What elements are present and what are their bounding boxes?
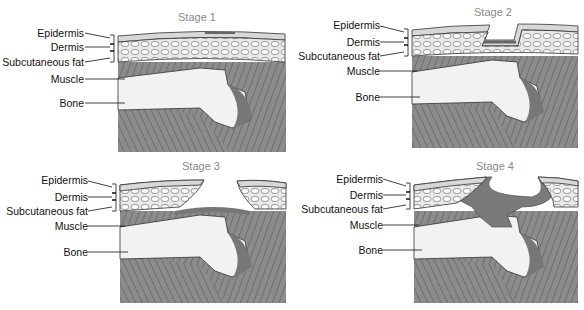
stage-3-panel: Stage 3 Epidermis Dermis Subcutaneous fa…	[0, 155, 292, 310]
label-muscle: Muscle	[51, 73, 84, 85]
label-epidermis: Epidermis	[333, 19, 380, 31]
label-dermis: Dermis	[347, 36, 380, 48]
label-bone: Bone	[63, 246, 88, 258]
label-bone: Bone	[358, 244, 383, 256]
label-subcutaneous-fat: Subcutaneous fat	[6, 205, 88, 217]
label-subcutaneous-fat: Subcutaneous fat	[298, 50, 380, 62]
label-dermis: Dermis	[350, 189, 383, 201]
stage-1-illustration	[0, 0, 292, 155]
label-epidermis: Epidermis	[41, 174, 88, 186]
label-subcutaneous-fat: Subcutaneous fat	[2, 56, 84, 68]
stage-4-panel: Stage 4 Epidermis Dermis Subcutaneous fa…	[292, 155, 584, 310]
label-dermis: Dermis	[55, 191, 88, 203]
label-epidermis: Epidermis	[336, 173, 383, 185]
label-muscle: Muscle	[350, 219, 383, 231]
label-epidermis: Epidermis	[37, 27, 84, 39]
label-muscle: Muscle	[55, 220, 88, 232]
label-bone: Bone	[59, 97, 84, 109]
stage-1-panel: Stage 1 Epidermis Dermis Subcutaneous fa…	[0, 0, 292, 155]
label-dermis: Dermis	[51, 41, 84, 53]
label-bone: Bone	[355, 91, 380, 103]
label-subcutaneous-fat: Subcutaneous fat	[301, 203, 383, 215]
stage-2-panel: Stage 2 Epidermis Dermis Subcutaneous fa…	[292, 0, 584, 155]
label-muscle: Muscle	[347, 65, 380, 77]
